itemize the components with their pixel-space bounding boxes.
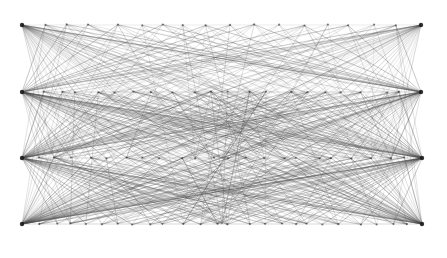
- hub-mid1-left: [20, 90, 24, 94]
- graph-node: [360, 223, 362, 225]
- graph-node: [403, 156, 405, 158]
- graph-node: [324, 91, 326, 93]
- graph-node: [216, 223, 218, 225]
- graph-node: [303, 24, 305, 26]
- graph-node: [295, 157, 297, 159]
- graph-node: [105, 157, 107, 159]
- graph-node: [141, 24, 143, 26]
- graph-node: [347, 24, 349, 26]
- graph-node: [113, 91, 115, 93]
- graph-node: [307, 91, 309, 93]
- graph-node: [97, 91, 99, 93]
- graph-node: [263, 157, 265, 159]
- graph-node: [182, 24, 184, 26]
- graph-node: [227, 157, 229, 159]
- graph-node: [38, 223, 40, 225]
- graph-node: [373, 24, 375, 26]
- graph-node: [295, 223, 297, 225]
- graph-node: [337, 223, 339, 225]
- graph-node: [132, 90, 134, 92]
- graph-node: [284, 157, 286, 159]
- graph-node: [150, 91, 152, 93]
- graph-node: [395, 24, 397, 26]
- graph-node: [66, 23, 68, 25]
- graph-node: [131, 223, 133, 225]
- graph-node: [117, 222, 119, 224]
- hub-top-left: [20, 23, 24, 27]
- graph-node: [87, 23, 89, 25]
- graph-node: [43, 90, 45, 92]
- graph-node: [330, 157, 332, 159]
- graph-node: [305, 222, 307, 224]
- graph-node: [199, 223, 201, 225]
- graph-node: [53, 156, 55, 158]
- graph-node: [350, 157, 352, 159]
- graph-node: [194, 91, 196, 93]
- graph-node: [340, 91, 342, 93]
- graph-node: [390, 157, 392, 159]
- graph-node: [158, 157, 160, 159]
- graph-node: [386, 91, 388, 93]
- network-graph-svg: [0, 0, 447, 258]
- graph-node: [70, 156, 72, 158]
- graph-node: [376, 223, 378, 225]
- graph-node: [181, 157, 183, 159]
- graph-node: [161, 223, 163, 225]
- graph-node: [101, 223, 103, 225]
- hub-mid1-right: [419, 90, 423, 94]
- graph-node: [205, 24, 207, 26]
- hub-mid2-right: [420, 156, 424, 160]
- graph-node: [281, 222, 283, 224]
- graph-node: [213, 156, 215, 158]
- graph-node: [44, 24, 46, 26]
- graph-node: [359, 91, 361, 93]
- graph-node: [249, 223, 251, 225]
- graph-node: [61, 91, 63, 93]
- graph-node: [90, 157, 92, 159]
- graph-node: [162, 23, 164, 25]
- hub-bottom-right: [420, 222, 424, 226]
- graph-node: [264, 223, 266, 225]
- graph-node: [210, 90, 212, 92]
- graph-node: [226, 223, 228, 225]
- graph-node: [194, 157, 196, 159]
- graph-node: [117, 24, 119, 26]
- graph-node: [69, 222, 71, 224]
- graph-node: [398, 91, 400, 93]
- graph-node: [248, 90, 250, 92]
- hub-top-right: [419, 23, 423, 27]
- graph-node: [149, 223, 151, 225]
- graph-node: [327, 23, 329, 25]
- graph-node: [171, 91, 173, 93]
- graph-node: [406, 223, 408, 225]
- graph-node: [253, 23, 255, 25]
- graph-node: [85, 223, 87, 225]
- graph-node: [229, 24, 231, 26]
- graph-node: [392, 223, 394, 225]
- graph-node: [125, 156, 127, 158]
- graph-node: [182, 223, 184, 225]
- graph-node: [227, 90, 229, 92]
- graph-node: [265, 90, 267, 92]
- graph-node: [319, 157, 321, 159]
- graph-canvas: [0, 0, 447, 258]
- graph-node: [321, 223, 323, 225]
- graph-node: [370, 157, 372, 159]
- graph-node: [278, 24, 280, 26]
- graph-node: [290, 91, 292, 93]
- graph-node: [74, 91, 76, 93]
- graph-node: [245, 156, 247, 158]
- hub-bottom-left: [20, 222, 24, 226]
- graph-node: [56, 223, 58, 225]
- hub-mid2-left: [20, 156, 24, 160]
- graph-node: [38, 156, 40, 158]
- graph-node: [141, 156, 143, 158]
